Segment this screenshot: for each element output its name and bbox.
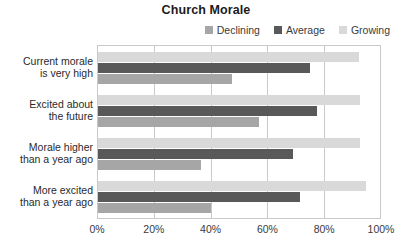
bar-growing[interactable] xyxy=(98,52,359,62)
bar-groups xyxy=(98,46,380,218)
x-axis-tick-label: 0% xyxy=(89,223,104,235)
bar-declining[interactable] xyxy=(98,74,232,84)
category-label: Excited aboutthe future xyxy=(0,98,93,122)
church-morale-chart: Church Morale DecliningAverageGrowing Cu… xyxy=(0,0,412,251)
category-label-line: is very high xyxy=(0,67,93,79)
category-label-line: than a year ago xyxy=(0,196,93,208)
bar-growing[interactable] xyxy=(98,138,360,148)
bar-group xyxy=(98,51,380,85)
chart-legend: DecliningAverageGrowing xyxy=(205,25,390,36)
legend-label: Growing xyxy=(351,25,390,36)
category-label-line: the future xyxy=(0,110,93,122)
x-axis-tick-label: 80% xyxy=(314,223,335,235)
category-label: Morale higherthan a year ago xyxy=(0,141,93,165)
bar-growing[interactable] xyxy=(98,181,366,191)
value-axis-labels: 0%20%40%60%80%100% xyxy=(97,223,381,239)
legend-swatch-icon xyxy=(205,26,213,34)
x-axis-tick-label: 60% xyxy=(257,223,278,235)
category-label-line: More excited xyxy=(0,184,93,196)
bar-group xyxy=(98,94,380,128)
x-axis-tick-label: 40% xyxy=(200,223,221,235)
bar-declining[interactable] xyxy=(98,160,201,170)
legend-item-growing[interactable]: Growing xyxy=(339,25,390,36)
bar-average[interactable] xyxy=(98,63,310,73)
category-label-line: than a year ago xyxy=(0,153,93,165)
category-label-line: Current morale xyxy=(0,55,93,67)
chart-title: Church Morale xyxy=(0,3,412,17)
plot-area xyxy=(97,45,381,219)
bar-group xyxy=(98,137,380,171)
bar-growing[interactable] xyxy=(98,95,360,105)
bar-group xyxy=(98,180,380,214)
bar-declining[interactable] xyxy=(98,203,211,213)
category-axis-labels: Current moraleis very highExcited aboutt… xyxy=(0,45,93,219)
legend-item-average[interactable]: Average xyxy=(274,25,325,36)
category-label: More excitedthan a year ago xyxy=(0,184,93,208)
bar-average[interactable] xyxy=(98,106,317,116)
legend-swatch-icon xyxy=(339,26,347,34)
legend-swatch-icon xyxy=(274,26,282,34)
category-label: Current moraleis very high xyxy=(0,55,93,79)
legend-label: Average xyxy=(286,25,325,36)
legend-item-declining[interactable]: Declining xyxy=(205,25,260,36)
category-label-line: Excited about xyxy=(0,98,93,110)
x-axis-tick-label: 20% xyxy=(143,223,164,235)
legend-label: Declining xyxy=(217,25,260,36)
bar-average[interactable] xyxy=(98,149,293,159)
bar-average[interactable] xyxy=(98,192,300,202)
category-label-line: Morale higher xyxy=(0,141,93,153)
bar-declining[interactable] xyxy=(98,117,259,127)
x-axis-tick-label: 100% xyxy=(368,223,395,235)
